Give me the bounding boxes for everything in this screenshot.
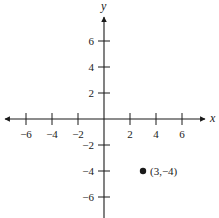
y-tick-label: −6 [82,191,94,203]
data-point-label: (3,−4) [150,165,178,178]
x-tick-label: 4 [153,128,159,140]
y-tick-label: 2 [89,87,95,99]
data-point [140,168,146,174]
y-axis-label: y [100,0,107,13]
y-tick-label: −2 [82,139,94,151]
y-tick-label: 6 [89,35,95,47]
x-ticks: −6−4−2246 [20,113,185,140]
coordinate-plane: x y −6−4−2246 642−2−4−6 (3,−4) [0,0,219,218]
data-points: (3,−4) [140,165,178,178]
x-axis-label: x [209,111,216,125]
y-tick-label: −4 [82,165,94,177]
y-tick-label: 4 [89,61,95,73]
x-tick-label: 6 [179,128,185,140]
x-tick-label: −4 [46,128,58,140]
x-tick-label: 2 [127,128,133,140]
x-tick-label: −6 [20,128,32,140]
